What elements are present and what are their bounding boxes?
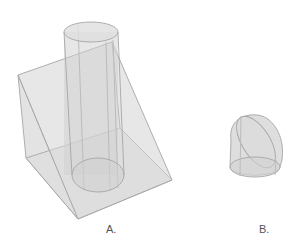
cylinder-bottom-ellipse — [72, 158, 124, 192]
shape-b-truncated-cylinder — [229, 110, 283, 177]
cylinder-body — [64, 32, 118, 175]
truncated-bottom-ellipse — [230, 157, 280, 177]
cylinder-top-ellipse — [64, 22, 118, 42]
label-a: A. — [106, 223, 116, 235]
figure-canvas — [0, 0, 307, 250]
label-b: B. — [259, 223, 269, 235]
shape-a-wedge-with-cylinder — [18, 22, 172, 219]
